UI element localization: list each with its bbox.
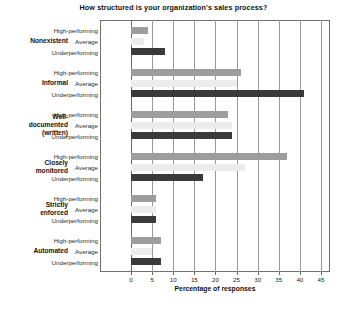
bar-row: [100, 237, 330, 244]
page-title: How structured is your organization's sa…: [0, 3, 347, 12]
series-label-avg: Average: [75, 38, 98, 45]
category-label-line: monitored: [0, 167, 68, 175]
category-label-line: Closely: [0, 159, 68, 167]
x-tick-30: [258, 272, 259, 275]
bar: [131, 69, 241, 76]
bar: [131, 80, 237, 87]
bar: [131, 90, 304, 97]
gridline-10: [173, 20, 174, 272]
bar: [131, 216, 156, 223]
bar-row: [100, 132, 330, 139]
category-label: Informal: [0, 79, 68, 87]
bar-row: [100, 248, 330, 255]
category-label-line: Nonexistent: [0, 37, 68, 45]
category-label: Nonexistent: [0, 37, 68, 45]
bar: [131, 122, 232, 129]
bar-row: [100, 38, 330, 45]
bar-row: [100, 111, 330, 118]
category-label-line: Informal: [0, 79, 68, 87]
bar: [131, 48, 165, 55]
gridline-20: [215, 20, 216, 272]
bar: [131, 237, 161, 244]
x-tick-45: [321, 272, 322, 275]
series-label-avg: Average: [75, 164, 98, 171]
x-tick-5: [152, 272, 153, 275]
category-labels: NonexistentInformalWell-documented(writt…: [0, 20, 68, 272]
gridline-25: [237, 20, 238, 272]
gridline-0: [131, 20, 132, 272]
x-tick-label-15: 15: [185, 276, 203, 283]
category-label-line: (written): [0, 129, 68, 137]
bar: [131, 132, 232, 139]
bar-row: [100, 164, 330, 171]
chart-figure: How structured is your organization's sa…: [0, 0, 347, 317]
x-tick-label-45: 45: [312, 276, 330, 283]
gridline-45: [321, 20, 322, 272]
bar-row: [100, 258, 330, 265]
series-label-avg: Average: [75, 248, 98, 255]
x-tick-label-25: 25: [228, 276, 246, 283]
bar: [131, 248, 152, 255]
category-label: Well-documented(written): [0, 113, 68, 137]
bar: [131, 27, 148, 34]
bar: [131, 153, 287, 160]
bar: [131, 164, 245, 171]
x-axis-label: Percentage of responses: [100, 285, 330, 292]
category-label-line: enforced: [0, 209, 68, 217]
bar: [131, 258, 161, 265]
bar-row: [100, 69, 330, 76]
bar-row: [100, 216, 330, 223]
bar-row: [100, 153, 330, 160]
x-tick-label-0: 0: [122, 276, 140, 283]
x-tick-20: [215, 272, 216, 275]
bar-row: [100, 206, 330, 213]
x-tick-label-40: 40: [291, 276, 309, 283]
category-label: Strictlyenforced: [0, 201, 68, 217]
bar-row: [100, 80, 330, 87]
gridline-40: [300, 20, 301, 272]
category-label-line: Strictly: [0, 201, 68, 209]
category-label-line: Automated: [0, 247, 68, 255]
x-tick-35: [279, 272, 280, 275]
category-label-line: Well-: [0, 113, 68, 121]
series-label-avg: Average: [75, 80, 98, 87]
bar: [131, 174, 203, 181]
bar-row: [100, 174, 330, 181]
x-tick-40: [300, 272, 301, 275]
series-label-avg: Average: [75, 206, 98, 213]
gridline-35: [279, 20, 280, 272]
x-tick-label-30: 30: [249, 276, 267, 283]
bar: [131, 38, 144, 45]
gridline-15: [194, 20, 195, 272]
series-label-avg: Average: [75, 122, 98, 129]
x-tick-25: [237, 272, 238, 275]
x-tick-15: [194, 272, 195, 275]
x-tick-label-35: 35: [270, 276, 288, 283]
bar: [131, 195, 156, 202]
x-tick-label-20: 20: [206, 276, 224, 283]
gridline-5: [152, 20, 153, 272]
bar: [131, 111, 228, 118]
x-tick-label-5: 5: [143, 276, 161, 283]
bar-row: [100, 90, 330, 97]
x-tick-10: [173, 272, 174, 275]
bar-row: [100, 195, 330, 202]
bar-row: [100, 122, 330, 129]
plot-area: [100, 20, 330, 272]
bar-row: [100, 48, 330, 55]
category-label-line: documented: [0, 121, 68, 129]
category-label: Automated: [0, 247, 68, 255]
x-tick-label-10: 10: [164, 276, 182, 283]
category-label: Closelymonitored: [0, 159, 68, 175]
bar: [131, 206, 156, 213]
x-tick-0: [131, 272, 132, 275]
gridline-30: [258, 20, 259, 272]
bar-row: [100, 27, 330, 34]
